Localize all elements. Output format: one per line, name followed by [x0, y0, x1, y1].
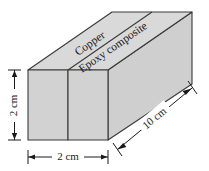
height-dimension-label: 2 cm	[7, 94, 19, 116]
height-arrow-down-icon	[12, 133, 17, 140]
height-arrow-up-icon	[12, 71, 17, 78]
front-face-copper	[28, 70, 68, 140]
width-dimension-label: 2 cm	[57, 150, 79, 162]
width-arrow-left-icon	[29, 154, 36, 159]
dimension-height: 2 cm	[7, 70, 21, 140]
width-arrow-right-icon	[101, 154, 108, 159]
bar-solid	[28, 12, 192, 140]
front-face-epoxy	[68, 70, 108, 140]
composite-bar-diagram: Copper Epoxy composite 2 cm	[0, 0, 209, 171]
dimension-width: 2 cm	[28, 149, 108, 165]
